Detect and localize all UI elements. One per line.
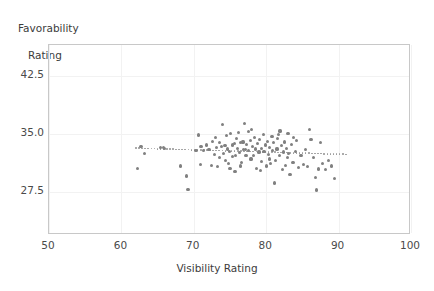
trendline-dot [311,153,313,155]
data-point [139,145,142,148]
trendline-dot [320,153,322,155]
trendline-dot [175,149,177,151]
data-point [257,150,260,153]
data-point [317,167,320,170]
data-point [199,163,202,166]
data-point [268,157,271,160]
y-tick-label: 27.5 [0,184,44,196]
data-point [249,157,252,160]
trendline-dot [144,148,146,150]
data-point [286,132,289,135]
trendline-dot [215,150,217,152]
trendline-dot [308,152,310,154]
data-point [233,170,236,173]
trendline-dot [147,148,149,150]
data-point [216,165,219,168]
data-point [197,133,200,136]
x-tick-label: 100 [390,239,430,251]
trendline-dot [231,150,233,152]
data-point [288,173,291,176]
trendline-dot [188,149,190,151]
data-point [225,134,228,137]
data-point [240,161,243,164]
trendline-dot [151,148,153,150]
data-point [143,152,146,155]
data-point [210,164,213,167]
data-point [213,153,216,156]
data-point [315,188,318,191]
data-point [284,164,287,167]
gridline-horizontal [49,76,409,77]
data-point [179,164,182,167]
trendline-dot [166,148,168,150]
data-point [218,156,221,159]
data-point [269,162,272,165]
data-point [215,146,218,149]
trendline-dot [169,148,171,150]
data-point [264,143,267,146]
trendline-dot [339,153,341,155]
data-point [186,188,189,191]
data-point [270,135,273,138]
trendline-dot [345,154,347,156]
data-point [185,174,188,177]
data-point [262,133,265,136]
x-tick-label: 60 [100,239,140,251]
data-point [136,167,139,170]
data-point [333,177,336,180]
data-point [283,140,286,143]
data-point [235,137,238,140]
data-point [287,152,290,155]
x-axis-title: Visibility Rating [0,262,434,274]
data-point [274,159,277,162]
data-point [319,141,322,144]
data-point [221,123,224,126]
data-point [278,154,281,157]
data-point [281,168,284,171]
data-point [312,156,315,159]
data-point [214,136,217,139]
trendline-dot [323,153,325,155]
data-point [249,139,252,142]
trendline-dot [330,153,332,155]
scatter-chart-figure: Favorability Rating 27.535.042.5 5060708… [0,0,434,291]
data-point [285,147,288,150]
y-tick-label: 35.0 [0,126,44,138]
gridline-vertical [49,45,50,233]
data-point [244,154,247,157]
x-tick-label: 90 [318,239,358,251]
data-point [290,143,293,146]
trendline-dot [212,150,214,152]
trendline-dot [154,148,156,150]
data-point [265,164,268,167]
data-point [276,137,279,140]
trendline-dot [305,152,307,154]
data-point [306,165,309,168]
data-point [275,147,278,150]
trendline-dot [333,153,335,155]
trendline-dot [274,151,276,153]
x-tick-label: 50 [28,239,68,251]
data-point [228,150,231,153]
data-point [314,176,317,179]
data-point [260,160,263,163]
trendline-dot [234,150,236,152]
data-point [321,162,324,165]
data-point [211,140,214,143]
data-point [273,181,276,184]
trendline-dot [327,153,329,155]
data-point [256,142,259,145]
data-point [324,168,327,171]
data-point [282,150,285,153]
data-point [297,166,300,169]
data-point [253,136,256,139]
gridline-vertical [339,45,340,233]
data-point [294,150,297,153]
trendline-dot [157,148,159,150]
data-point [330,164,333,167]
data-point [304,148,307,151]
data-point [243,122,246,125]
data-point [266,140,269,143]
data-point [302,163,305,166]
trendline-dot [184,149,186,151]
